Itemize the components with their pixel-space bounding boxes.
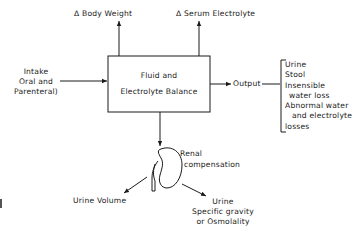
urine-sg-label: Urine Specific gravity or Osmolality	[178, 197, 268, 227]
renal-label-1: Renal	[180, 149, 202, 159]
output-item: and electrolyte	[285, 111, 352, 121]
output-item: losses	[285, 122, 352, 132]
box-line-2: Electrolyte Balance	[108, 87, 210, 97]
renal-label-2: compensation	[184, 160, 240, 170]
output-item: Stool	[285, 70, 352, 80]
output-item: Urine	[285, 60, 352, 70]
edge-mark	[0, 199, 2, 208]
kidney-icon	[158, 148, 182, 188]
output-label: Output	[233, 79, 261, 89]
urine-sg-line: Urine	[178, 197, 268, 207]
balance-box	[108, 56, 210, 112]
urine-volume-label: Urine Volume	[73, 196, 126, 206]
intake-label: Intake Oral and Parenteral)	[10, 67, 62, 97]
output-list: Urine Stool Insensible water loss Abnorm…	[285, 60, 352, 132]
output-item: Abnormal water	[285, 101, 352, 111]
arrow-urine-volume	[124, 177, 147, 193]
ureter-icon	[152, 161, 158, 191]
output-item: Insensible	[285, 81, 352, 91]
output-item: water loss	[285, 91, 352, 101]
intake-line: Parenteral)	[10, 87, 62, 97]
intake-line: Oral and	[10, 77, 62, 87]
label-serum-electrolyte: Δ Serum Electrolyte	[176, 9, 255, 19]
box-line-1: Fluid and	[108, 71, 210, 81]
arrow-urine-sg	[182, 184, 206, 196]
urine-sg-line: Specific gravity	[178, 207, 268, 217]
intake-line: Intake	[10, 67, 62, 77]
label-body-weight: Δ Body Weight	[74, 9, 132, 19]
urine-sg-line: or Osmolality	[178, 217, 268, 227]
